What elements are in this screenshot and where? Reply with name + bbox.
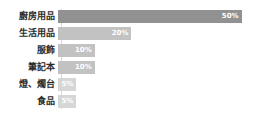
bar-value-label: 5% [61, 81, 76, 88]
bar-value-label: 20% [112, 30, 132, 37]
bar-value-label: 5% [61, 98, 76, 105]
category-label: 廚房用品 [0, 10, 58, 23]
chart-row: 筆記本 10% [0, 61, 263, 74]
bar[interactable]: 50% [58, 10, 242, 23]
bar[interactable]: 10% [58, 44, 95, 57]
bar-track: 10% [58, 61, 263, 74]
chart-row: 廚房用品 50% [0, 10, 263, 23]
bar-chart: 廚房用品 50% 生活用品 20% 服飾 10% [0, 0, 263, 116]
bar-value-label: 10% [75, 47, 95, 54]
plot-area: 廚房用品 50% 生活用品 20% 服飾 10% [0, 0, 263, 116]
category-label: 生活用品 [0, 27, 58, 40]
chart-row: 燈、燭台 5% [0, 78, 263, 91]
chart-row: 生活用品 20% [0, 27, 263, 40]
chart-row: 食品 5% [0, 95, 263, 108]
category-label: 筆記本 [0, 61, 58, 74]
bar-track: 5% [58, 95, 263, 108]
bar[interactable]: 10% [58, 61, 95, 74]
bar[interactable]: 20% [58, 27, 131, 40]
category-label: 食品 [0, 95, 58, 108]
bar-track: 5% [58, 78, 263, 91]
bar-track: 50% [58, 10, 263, 23]
category-label: 燈、燭台 [0, 78, 58, 91]
category-label: 服飾 [0, 44, 58, 57]
bar[interactable]: 5% [58, 78, 76, 91]
chart-row: 服飾 10% [0, 44, 263, 57]
bar-track: 10% [58, 44, 263, 57]
bar-value-label: 10% [75, 64, 95, 71]
bar-track: 20% [58, 27, 263, 40]
bar[interactable]: 5% [58, 95, 76, 108]
bar-value-label: 50% [222, 13, 242, 20]
